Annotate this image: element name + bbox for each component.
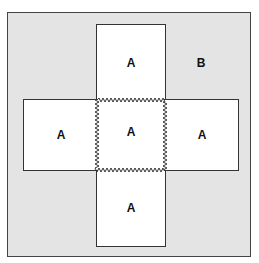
label-center: A [127,125,136,139]
label-right: A [198,128,207,142]
label-bottom: A [127,201,136,215]
label-left: A [57,128,66,142]
label-top: A [127,56,136,70]
label-b: B [197,56,206,70]
